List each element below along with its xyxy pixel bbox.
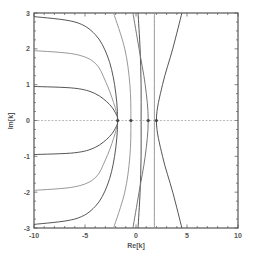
- x-tick-label: -10: [29, 232, 39, 239]
- y-tick-label: 1: [26, 81, 30, 88]
- contour-chart: -10-50510-3-2-10123 Re[k] Im[k]: [0, 0, 254, 265]
- y-tick-label: 3: [26, 10, 30, 17]
- x-tick-label: -5: [82, 232, 88, 239]
- crossing-dot: [147, 119, 150, 122]
- y-tick-label: 2: [26, 45, 30, 52]
- plot-frame: [34, 13, 238, 228]
- x-axis-label: Re[k]: [127, 242, 145, 250]
- crossing-dot: [155, 119, 158, 122]
- crossing-dot: [129, 119, 132, 122]
- y-tick-label: -2: [24, 189, 30, 196]
- y-tick-label: -1: [24, 153, 30, 160]
- x-tick-label: 10: [234, 232, 242, 239]
- crossing-dot: [116, 119, 119, 122]
- axis-ticks: -10-50510-3-2-10123: [24, 10, 242, 240]
- x-tick-label: 5: [185, 232, 189, 239]
- y-tick-label: -3: [24, 225, 30, 232]
- y-tick-label: 0: [26, 117, 30, 124]
- x-tick-label: 0: [134, 232, 138, 239]
- y-axis-label: Im[k]: [7, 113, 15, 130]
